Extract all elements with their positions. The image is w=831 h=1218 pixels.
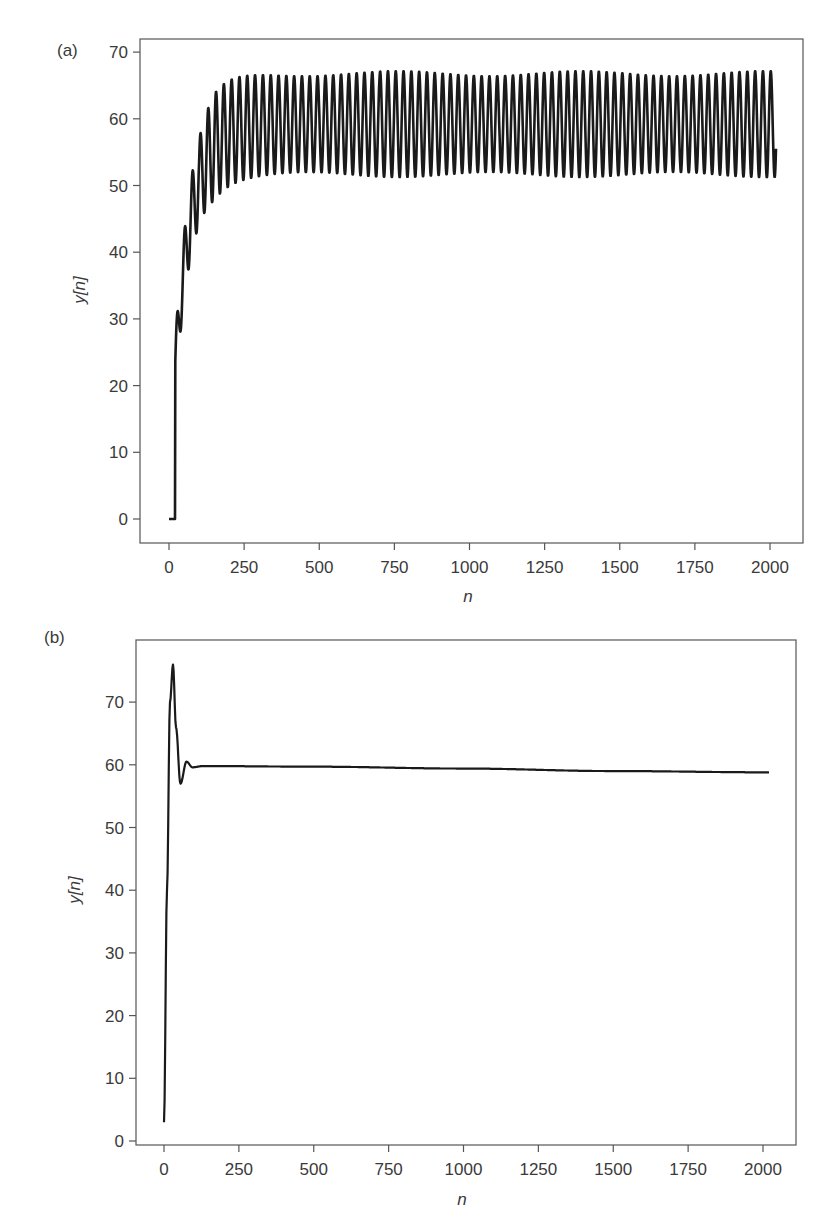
x-tick-label: 1500: [601, 558, 639, 577]
x-axis-label-b: n: [457, 1190, 466, 1209]
y-tick-label: 40: [105, 881, 124, 900]
y-axis-label-b: y[n]: [65, 875, 84, 905]
chart-panel-a: (a) 025050075010001250150017502000010203…: [0, 0, 831, 610]
chart-a-svg: (a) 025050075010001250150017502000010203…: [0, 0, 831, 610]
x-tick-label: 1750: [676, 558, 714, 577]
y-tick-label: 0: [119, 510, 128, 529]
panel-label-b: (b): [44, 628, 65, 647]
x-tick-label: 500: [305, 558, 333, 577]
y-tick-label: 40: [109, 243, 128, 262]
y-axis-label-a: y[n]: [70, 275, 89, 305]
x-tick-label: 0: [159, 1160, 168, 1179]
y-tick-label: 10: [105, 1069, 124, 1088]
y-tick-label: 60: [105, 756, 124, 775]
panel-label-a: (a): [57, 41, 78, 60]
y-tick-label: 50: [109, 177, 128, 196]
x-tick-label: 750: [380, 558, 408, 577]
y-tick-label: 30: [109, 310, 128, 329]
x-tick-label: 0: [164, 558, 173, 577]
x-tick-label: 750: [374, 1160, 402, 1179]
x-tick-label: 1250: [526, 558, 564, 577]
y-tick-label: 70: [105, 693, 124, 712]
x-tick-label: 2000: [751, 558, 789, 577]
y-tick-label: 30: [105, 944, 124, 963]
plot-frame-b: [136, 640, 796, 1145]
y-tick-label: 0: [115, 1132, 124, 1151]
y-tick-label: 10: [109, 443, 128, 462]
x-tick-label: 1000: [445, 1160, 483, 1179]
y-tick-label: 20: [109, 377, 128, 396]
x-tick-label: 2000: [744, 1160, 782, 1179]
y-tick-label: 70: [109, 43, 128, 62]
y-tick-label: 50: [105, 819, 124, 838]
x-tick-label: 1000: [451, 558, 489, 577]
x-tick-label: 500: [300, 1160, 328, 1179]
y-tick-label: 60: [109, 110, 128, 129]
x-axis-label-a: n: [463, 587, 472, 606]
x-tick-label: 1250: [519, 1160, 557, 1179]
x-tick-label: 1750: [669, 1160, 707, 1179]
data-series-a: [169, 71, 776, 519]
chart-panel-b: (b) 025050075010001250150017502000010203…: [0, 610, 831, 1218]
series-line: [169, 71, 776, 519]
x-tick-label: 250: [225, 1160, 253, 1179]
x-tick-label: 1500: [594, 1160, 632, 1179]
chart-b-svg: (b) 025050075010001250150017502000010203…: [0, 610, 831, 1218]
x-tick-label: 250: [230, 558, 258, 577]
data-series-b: [164, 665, 769, 1123]
series-line: [164, 665, 769, 1123]
y-tick-label: 20: [105, 1007, 124, 1026]
